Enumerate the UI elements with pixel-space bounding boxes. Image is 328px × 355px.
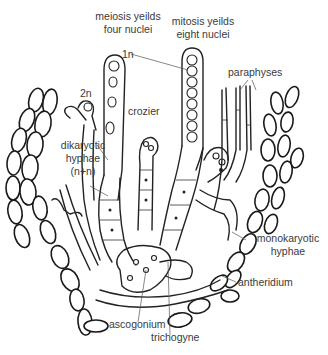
label-monokaryotic-hyphae: monokaryotic hyphae bbox=[252, 232, 324, 258]
ascus-four-nuclei bbox=[104, 55, 125, 200]
label-dikaryotic-line3: (n+n) bbox=[58, 165, 108, 178]
label-trichogyne: trichogyne bbox=[151, 331, 199, 344]
label-ascogonium: ascogonium bbox=[109, 318, 166, 331]
label-1n: 1n bbox=[122, 48, 134, 61]
ascocarp-drawing bbox=[0, 0, 328, 355]
label-dikaryotic-line2: hyphae bbox=[58, 152, 108, 165]
label-monokaryotic-line2: hyphae bbox=[252, 245, 324, 258]
label-dikaryotic-line1: dikaryotic bbox=[58, 139, 108, 152]
ascus-eight-nuclei bbox=[182, 48, 203, 170]
label-meiosis: meiosis yeilds four nuclei bbox=[91, 10, 165, 36]
label-monokaryotic-line1: monokaryotic bbox=[252, 232, 324, 245]
ascogonium bbox=[96, 245, 228, 307]
label-meiosis-line2: four nuclei bbox=[91, 23, 165, 36]
label-paraphyses: paraphyses bbox=[228, 66, 282, 79]
label-mitosis: mitosis yeilds eight nuclei bbox=[163, 15, 243, 41]
label-mitosis-line2: eight nuclei bbox=[163, 28, 243, 41]
left-peridium-cells bbox=[6, 87, 108, 336]
label-meiosis-line1: meiosis yeilds bbox=[91, 10, 165, 23]
young-ascus-right bbox=[204, 148, 228, 183]
crozier bbox=[138, 137, 158, 230]
label-antheridium: antheridium bbox=[238, 276, 293, 289]
diploid-ascus bbox=[65, 101, 96, 130]
label-mitosis-line1: mitosis yeilds bbox=[163, 15, 243, 28]
label-2n: 2n bbox=[80, 87, 92, 100]
label-crozier: crozier bbox=[128, 105, 160, 118]
ascocarp-diagram: meiosis yeilds four nuclei mitosis yeild… bbox=[0, 0, 328, 355]
label-dikaryotic-hyphae: dikaryotic hyphae (n+n) bbox=[58, 139, 108, 178]
